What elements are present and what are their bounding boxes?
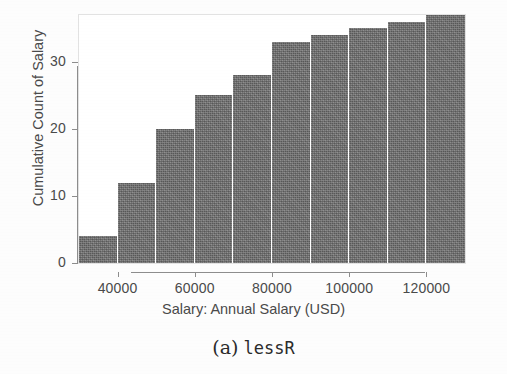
x-tick-mark (426, 272, 427, 277)
bar (349, 28, 388, 263)
x-axis-title: Salary: Annual Salary (USD) (0, 301, 507, 317)
bar (79, 236, 118, 263)
y-tick-mark (72, 263, 78, 264)
x-tick-mark (349, 272, 350, 277)
bar (311, 35, 350, 263)
cumulative-histogram-figure: 0102030 Cumulative Count of Salary 40000… (0, 0, 507, 320)
figure-caption: (a)lessR (0, 336, 507, 359)
y-tick-mark (72, 62, 78, 63)
bar (272, 42, 311, 263)
y-tick-mark (72, 129, 78, 130)
bar (195, 95, 234, 263)
x-tick-mark (118, 272, 119, 277)
bar (388, 22, 427, 263)
bar-series (79, 15, 465, 263)
figure-page: 0102030 Cumulative Count of Salary 40000… (0, 0, 507, 374)
caption-package-name: lessR (243, 338, 294, 358)
bar (233, 75, 272, 263)
x-tick-label: 120000 (371, 280, 481, 296)
x-tick-mark (272, 272, 273, 277)
bar (426, 15, 465, 263)
plot-area (79, 15, 465, 263)
y-tick-label: 0 (20, 254, 66, 270)
bar (118, 183, 157, 263)
y-axis-title: Cumulative Count of Salary (30, 8, 46, 228)
y-tick-mark (72, 196, 78, 197)
caption-label: (a) (212, 336, 238, 358)
bar (156, 129, 195, 263)
y-axis-line (77, 66, 78, 264)
x-axis-line (131, 272, 425, 273)
x-tick-mark (195, 272, 196, 277)
